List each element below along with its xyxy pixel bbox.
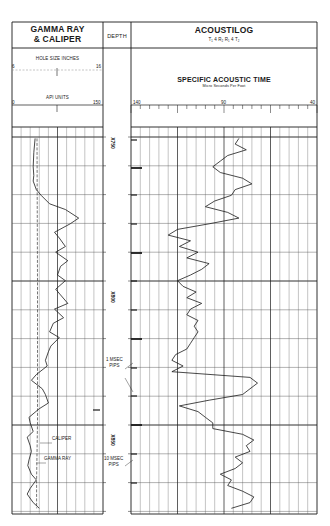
- sat-tick-90: 90: [221, 100, 226, 105]
- annotation-caliper: CALIPER: [52, 436, 71, 442]
- gamma-ray-curve: [27, 138, 78, 508]
- depth-label-x850: X850: [110, 434, 116, 446]
- annotation-1-msec-pips: 1 MSEC PIPS: [106, 357, 123, 368]
- depth-label-x800: X800: [110, 291, 116, 303]
- track-title-depth: DEPTH: [103, 31, 131, 41]
- hole-size-min: 6: [12, 64, 15, 69]
- acoustic-time-curve: [168, 138, 257, 508]
- hole-size-label: HOLE SIZE INCHES: [12, 56, 103, 61]
- depth-label-x750: X750: [110, 137, 116, 149]
- track-title-acoustilog: ACOUSTILOG: [131, 25, 317, 35]
- annotation-10-msec-pips: 10 MSEC PIPS: [104, 456, 123, 467]
- log-curves: [27, 138, 257, 508]
- api-units-label: API UNITS: [12, 95, 103, 100]
- sat-tick-140: 140: [133, 100, 141, 105]
- track-title-gamma-ray: GAMMA RAY & CALIPER: [12, 24, 103, 44]
- sat-title: SPECIFIC ACOUSTIC TIME: [131, 76, 317, 84]
- timing-pips: [36, 140, 142, 483]
- acoustilog-subtitle: T₁ 4 R₂ R₁ 4 T₂: [131, 37, 317, 42]
- sat-unit: Micro Seconds Per Foot: [131, 84, 317, 88]
- annotation-gamma-ray: GAMMA RAY: [44, 456, 71, 462]
- sat-tick-40: 40: [310, 100, 315, 105]
- hole-size-max: 16: [96, 64, 101, 69]
- caliper-curve: [37, 138, 38, 508]
- api-max: 150: [93, 100, 101, 105]
- api-min: 0: [12, 100, 15, 105]
